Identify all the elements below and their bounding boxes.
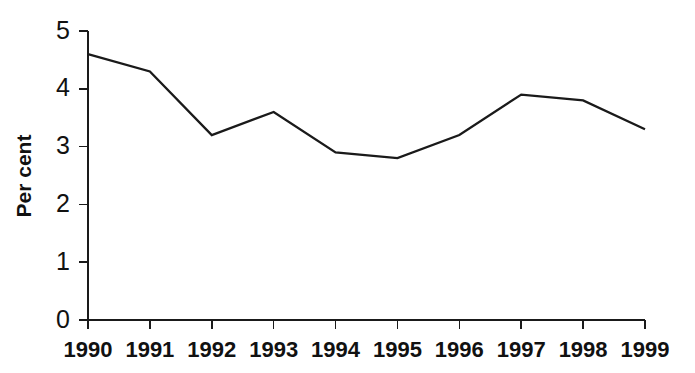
y-axis-tick-label: 1	[56, 247, 70, 275]
x-axis-tick-label: 1998	[559, 337, 608, 362]
x-axis-tick-label: 1992	[187, 337, 236, 362]
x-axis-tick-labels: 1990199119921993199419951996199719981999	[64, 337, 670, 362]
chart-canvas: Per cent 012345 199019911992199319941995…	[0, 0, 695, 373]
x-axis-tick-label: 1995	[373, 337, 422, 362]
x-axis-tick-label: 1997	[497, 337, 546, 362]
y-axis-tick-label: 0	[56, 305, 70, 333]
y-axis-tick-label: 5	[56, 16, 70, 44]
y-axis-tick-label: 2	[56, 189, 70, 217]
y-axis-tick-marks	[79, 31, 88, 320]
x-axis-tick-marks	[88, 320, 645, 329]
data-series-line	[88, 54, 645, 158]
x-axis-tick-label: 1991	[125, 337, 174, 362]
x-axis-tick-label: 1990	[64, 337, 113, 362]
x-axis-tick-label: 1996	[435, 337, 484, 362]
line-chart: Per cent 012345 199019911992199319941995…	[0, 0, 695, 373]
x-axis-tick-label: 1994	[311, 337, 361, 362]
y-axis-tick-label: 3	[56, 131, 70, 159]
x-axis-tick-label: 1993	[249, 337, 298, 362]
x-axis-tick-label: 1999	[621, 337, 670, 362]
y-axis-tick-labels: 012345	[56, 16, 70, 333]
y-axis-tick-label: 4	[56, 73, 70, 101]
y-axis-title: Per cent	[12, 135, 35, 218]
